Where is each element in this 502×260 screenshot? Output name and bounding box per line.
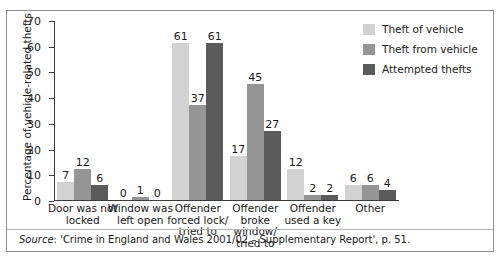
- plot-area: 010203040506070 712601061376117452712226…: [54, 21, 399, 201]
- y-axis-tick-label: 60: [27, 40, 41, 53]
- legend-item[interactable]: Theft from vehicle: [363, 43, 495, 55]
- x-axis-line: [54, 200, 399, 201]
- bar-group: 010: [112, 197, 170, 200]
- bar[interactable]: [304, 195, 321, 200]
- bar-value-label: 27: [265, 119, 279, 130]
- bar-item[interactable]: 17: [230, 156, 247, 200]
- legend-label: Attempted thefts: [382, 63, 472, 75]
- bar-item[interactable]: 7: [57, 182, 74, 200]
- bar-item[interactable]: 4: [379, 190, 396, 200]
- bar[interactable]: [189, 105, 206, 200]
- bar[interactable]: [247, 84, 264, 200]
- source-citation: : 'Crime in England and Wales 2001/02 – …: [54, 234, 411, 245]
- bar-group: 664: [342, 185, 400, 200]
- legend-label: Theft from vehicle: [382, 43, 478, 55]
- source-note: Source: 'Crime in England and Wales 2001…: [19, 234, 410, 245]
- y-axis-tick: 70: [49, 21, 54, 22]
- bar-value-label: 7: [62, 170, 69, 181]
- y-axis-tick-label: 20: [27, 143, 41, 156]
- bar[interactable]: [287, 169, 304, 200]
- bar-item[interactable]: 12: [287, 169, 304, 200]
- y-axis-tick: 40: [49, 98, 54, 99]
- y-axis-tick: 30: [49, 124, 54, 125]
- bar[interactable]: [321, 195, 338, 200]
- bar[interactable]: [57, 182, 74, 200]
- bar[interactable]: [132, 197, 149, 200]
- bar-value-label: 12: [289, 157, 303, 168]
- bar-value-label: 61: [174, 31, 188, 42]
- cropped-title-sliver: [0, 0, 502, 9]
- bar-group: 613761: [169, 43, 227, 200]
- bar-value-label: 12: [76, 157, 90, 168]
- y-axis-tick-label: 40: [27, 92, 41, 105]
- y-axis-tick: 20: [49, 150, 54, 151]
- bar-value-label: 0: [120, 188, 127, 199]
- source-label: Source: [19, 234, 54, 245]
- bar-item[interactable]: 2: [304, 195, 321, 200]
- y-axis-tick-label: 30: [27, 117, 41, 130]
- bar-value-label: 6: [96, 173, 103, 184]
- category-label: Other: [334, 203, 408, 215]
- source-divider: [7, 229, 493, 230]
- bar-group: 7126: [54, 169, 112, 200]
- figure-frame: Percentage of vehicle-related thefts 010…: [6, 10, 494, 252]
- legend-item[interactable]: Attempted thefts: [363, 63, 495, 75]
- bar-value-label: 17: [231, 144, 245, 155]
- y-axis-tick-label: 10: [27, 169, 41, 182]
- legend-swatch: [363, 24, 375, 35]
- legend-swatch: [363, 44, 375, 55]
- bar-value-label: 2: [309, 183, 316, 194]
- bar-item[interactable]: 45: [247, 84, 264, 200]
- bar[interactable]: [91, 185, 108, 200]
- legend-item[interactable]: Theft of vehicle: [363, 23, 495, 35]
- bar[interactable]: [345, 185, 362, 200]
- bar-item[interactable]: 6: [91, 185, 108, 200]
- bar-value-label: 4: [384, 178, 391, 189]
- bar[interactable]: [230, 156, 247, 200]
- category-label-line: used a key: [276, 215, 350, 227]
- bar-value-label: 2: [326, 183, 333, 194]
- bar-group: 174527: [227, 84, 285, 200]
- legend-swatch: [363, 64, 375, 75]
- bar-item[interactable]: 6: [362, 185, 379, 200]
- bar-item[interactable]: 37: [189, 105, 206, 200]
- bar-item[interactable]: 27: [264, 131, 281, 200]
- y-axis-tick: 60: [49, 47, 54, 48]
- bar[interactable]: [264, 131, 281, 200]
- bar-value-label: 6: [350, 173, 357, 184]
- bar-item[interactable]: 1: [132, 197, 149, 200]
- y-axis-tick-label: 50: [27, 66, 41, 79]
- bar-item[interactable]: 6: [345, 185, 362, 200]
- bar[interactable]: [74, 169, 91, 200]
- bar-value-label: 61: [208, 31, 222, 42]
- y-axis-tick: 50: [49, 72, 54, 73]
- bar-group: 1222: [284, 169, 342, 200]
- bar-value-label: 0: [154, 188, 161, 199]
- bar[interactable]: [206, 43, 223, 200]
- bar-value-label: 37: [191, 93, 205, 104]
- category-label-line: Other: [334, 203, 408, 215]
- bar[interactable]: [362, 185, 379, 200]
- bar-item[interactable]: 61: [206, 43, 223, 200]
- legend-label: Theft of vehicle: [382, 23, 463, 35]
- bar-item[interactable]: 12: [74, 169, 91, 200]
- bar-item[interactable]: 61: [172, 43, 189, 200]
- bar-value-label: 1: [137, 185, 144, 196]
- legend: Theft of vehicleTheft from vehicleAttemp…: [363, 23, 495, 83]
- bar[interactable]: [172, 43, 189, 200]
- y-axis-tick-label: 0: [34, 195, 41, 208]
- bar-item[interactable]: 2: [321, 195, 338, 200]
- bar-value-label: 45: [248, 72, 262, 83]
- bar-value-label: 6: [367, 173, 374, 184]
- bar[interactable]: [379, 190, 396, 200]
- y-axis-tick-label: 70: [27, 15, 41, 28]
